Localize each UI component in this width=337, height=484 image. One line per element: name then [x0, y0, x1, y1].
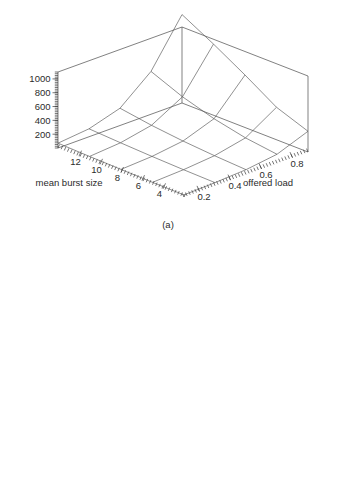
- x-minor-tick: [248, 170, 250, 173]
- x-minor-tick: [232, 176, 234, 179]
- mesh-col-line: [120, 108, 246, 169]
- x-minor-tick: [300, 151, 302, 154]
- x-minor-tick: [226, 178, 228, 181]
- x-minor-tick: [238, 173, 240, 176]
- y-tick-label: 4: [157, 188, 162, 199]
- x-minor-tick: [279, 159, 281, 162]
- y-axis-title: mean burst size: [35, 177, 102, 188]
- y-minor-tick: [90, 157, 92, 160]
- x-tick-label: 0.8: [290, 158, 303, 169]
- x-axis: 0.20.40.60.8offered load: [183, 149, 309, 203]
- x-minor-tick: [245, 171, 247, 174]
- x-minor-tick: [269, 162, 271, 165]
- z-tick-label: 400: [35, 115, 51, 126]
- x-minor-tick: [294, 153, 296, 156]
- panel-caption: (a): [162, 219, 174, 230]
- mesh-row-line: [121, 75, 245, 169]
- y-tick-label: 6: [136, 180, 141, 191]
- mesh-col-line: [89, 129, 215, 183]
- x-minor-tick: [266, 163, 268, 166]
- y-minor-tick: [71, 150, 73, 153]
- x-minor-tick: [241, 172, 243, 175]
- y-minor-tick: [67, 148, 69, 151]
- z-tick-label: 600: [35, 101, 51, 112]
- y-major-tick: [163, 183, 166, 189]
- axis-frame-line: [58, 27, 308, 76]
- y-minor-tick: [86, 156, 88, 159]
- z-axis: 2004006008001000: [29, 72, 58, 148]
- panel-b-plot: 204060801001201210864mean burst size0.20…: [0, 242, 337, 484]
- panel-a-figure: 20040060080010001210864mean burst size0.…: [0, 0, 337, 242]
- x-minor-tick: [272, 161, 274, 164]
- x-tick-label: 0.2: [197, 191, 210, 202]
- axis-frame-line: [58, 103, 308, 152]
- y-minor-tick: [74, 151, 76, 154]
- y-axis: 1210864mean burst size: [35, 145, 185, 200]
- panel-b-figure: 204060801001201210864mean burst size0.20…: [0, 242, 337, 484]
- y-minor-tick: [83, 154, 85, 157]
- y-tick-label: 8: [115, 172, 120, 183]
- panel-a-plot: 20040060080010001210864mean burst size0.…: [0, 0, 337, 242]
- x-minor-tick: [288, 155, 290, 158]
- x-minor-tick: [285, 156, 287, 159]
- y-tick-label: 12: [70, 156, 81, 167]
- z-tick-label: 1000: [29, 73, 50, 84]
- y-minor-tick: [64, 147, 66, 150]
- x-minor-tick: [282, 158, 284, 161]
- mesh-col-line: [151, 71, 277, 154]
- x-minor-tick: [263, 164, 265, 167]
- x-axis-title: offered load: [243, 177, 293, 188]
- mesh-col-line: [182, 15, 308, 132]
- x-minor-tick: [254, 168, 256, 171]
- z-tick-label: 200: [35, 129, 51, 140]
- z-tick-label: 800: [35, 87, 51, 98]
- x-minor-tick: [276, 160, 278, 163]
- x-minor-tick: [257, 167, 259, 170]
- y-tick-label: 10: [91, 164, 102, 175]
- axis-box: [58, 27, 308, 152]
- x-minor-tick: [297, 152, 299, 155]
- mesh-row-line: [90, 44, 214, 156]
- x-minor-tick: [235, 174, 237, 177]
- x-minor-tick: [251, 169, 253, 172]
- x-tick-label: 0.4: [228, 180, 241, 191]
